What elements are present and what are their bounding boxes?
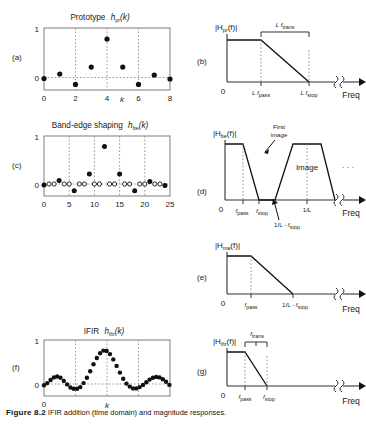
panel-c-data-points [42,144,168,193]
panel-f-tag: (f) [12,363,20,372]
panel-d-fstop-label: fstop [256,207,268,216]
panel-e: (e) |Hma(f)| 0 fpass 1/L - fstop Freq [183,222,366,317]
panel-b-tag: (b) [197,57,207,66]
panel-e-tag: (e) [197,273,207,282]
svg-text:15: 15 [115,200,124,209]
svg-text:6: 6 [136,94,141,103]
panel-b-fpass-label: L fpass [252,89,270,98]
panel-c-ytick-1: 1 [35,133,40,142]
panel-d-freq-label: Freq [342,208,360,218]
panel-a-ytick-1: 1 [35,25,40,34]
svg-text:20: 20 [140,200,149,209]
panel-a-tag: (a) [12,53,22,62]
svg-text:0: 0 [42,94,47,103]
panel-d-droplines [243,144,307,200]
panel-f-ytick-1: 1 [35,337,40,346]
figure-caption: Figure 8.2 IFIR addition (time domain) a… [6,408,362,418]
panel-d-origin-label: 0 [219,205,224,214]
panel-g-trans-label: ftrans [250,330,264,339]
panel-c-title: Band-edge shaping hbe(k) [52,121,149,131]
panel-f-ytick-0: 0 [35,381,40,390]
panel-c-gridlines [44,136,170,196]
panel-c: Band-edge shaping hbe(k) (c) 1 0 0 5 10 … [0,112,183,212]
panel-g-freq-label: Freq [342,396,360,406]
panel-a-xlabel: k [120,95,125,104]
panel-b-freq-label: Freq [342,90,360,100]
panel-c-plot-frame [44,136,170,196]
svg-text:4: 4 [105,94,110,103]
panel-f: IFIR hifir(k) (f) 1 0 0 k [0,318,183,410]
figure-caption-text: IFIR addition (time domain) and magnitud… [48,408,226,417]
svg-text:2: 2 [73,94,78,103]
panel-e-response-curve [227,256,293,294]
panel-b-axis-arrow [359,78,366,86]
panel-g-axis-arrow [359,382,366,390]
panel-g-ylabel: |Hifir(f)| [213,337,236,347]
svg-text:8: 8 [168,94,173,103]
panel-g-tag: (g) [197,367,207,376]
panel-g-trans-brace [245,342,267,347]
panel-g-fpass-label: fpass [238,393,251,402]
panel-d-first-image-label-line2: image [271,131,288,138]
panel-a-ytick-0: 0 [35,74,40,83]
panel-g-fstop-label: fstop [263,393,275,402]
svg-text:5: 5 [67,200,72,209]
panel-d: (d) |Hbe(f)| First image Image · · · 0 f… [183,108,366,230]
panel-b-response-curve [227,40,309,82]
panel-e-ylabel: |Hma(f)| [215,241,240,251]
panel-e-invL-fstop-label: 1/L - fstop [282,301,308,310]
panel-d-axis-break-icon [334,194,344,206]
figure-caption-label: Figure 8.2 [6,408,46,417]
panel-d-ellipsis: · · · [342,163,354,172]
panel-d-ylabel: |Hbe(f)| [213,129,237,139]
panel-c-xticks: 0 5 10 15 20 25 [42,200,175,209]
panel-d-axis-arrow [359,196,366,204]
panel-b-trans-brace [261,32,309,37]
panel-e-axis-arrow [359,290,366,298]
figure-ifir: Prototype hpr(k) (a) 1 0 0 2 4 6 8 k (b)… [0,0,366,425]
panel-d-fpass-label: fpass [235,207,248,216]
panel-g-axis-break-icon [334,380,344,392]
panel-f-gridlines [44,340,170,396]
panel-d-invL-label: 1/L [303,206,312,213]
panel-b-axis-break-icon [334,76,344,88]
panel-e-fpass-label: fpass [244,301,257,310]
panel-e-axis-break-icon [334,288,344,300]
svg-text:0: 0 [42,200,47,209]
panel-d-response-curve [225,144,335,200]
svg-text:10: 10 [90,200,99,209]
panel-g: (g) |Hifir(f)| ftrans 0 fpass fstop Freq [183,312,366,408]
panel-b-trans-label: L ftrans [276,21,295,30]
panel-g-xtick-marks [245,386,267,390]
panel-f-title: IFIR hifir(k) [84,327,125,337]
panel-d-first-image-label-line1: First [273,123,285,130]
panel-b-ylabel: |Hpr(f)| [215,23,237,33]
panel-c-ytick-0: 0 [35,181,40,190]
panel-b: (b) |Hpr(f)| L ftrans 0 L fpass L fstop … [183,2,366,107]
panel-b-xtick-marks [261,82,309,86]
panel-b-fstop-label: L fstop [301,89,318,98]
panel-e-origin-label: 0 [221,299,226,308]
panel-e-xtick-marks [251,294,293,298]
panel-c-zero-points [47,182,162,186]
panel-g-response-curve [227,352,267,386]
panel-a: Prototype hpr(k) (a) 1 0 0 2 4 6 8 k [0,2,183,107]
svg-text:25: 25 [166,200,175,209]
panel-c-tag: (c) [12,161,22,170]
panel-g-origin-label: 0 [221,391,226,400]
panel-d-first-image-arrow [265,140,275,152]
panel-d-tag: (d) [197,187,207,196]
panel-d-image-label: Image [296,163,319,172]
panel-b-origin-label: 0 [221,87,226,96]
panel-a-title: Prototype hpr(k) [70,13,130,23]
panel-a-xticks: 0 2 4 6 8 [42,94,173,103]
